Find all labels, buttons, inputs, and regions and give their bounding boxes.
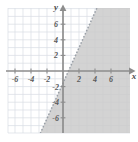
x-tick-label: -6 — [12, 75, 19, 84]
y-tick-label: -6 — [52, 114, 59, 123]
x-tick-label: 4 — [92, 75, 97, 84]
x-tick-label: 2 — [76, 75, 81, 84]
y-tick-label: -4 — [52, 98, 59, 107]
graph-canvas: -6 -4 -2 2 4 6 6 4 2 -2 -4 -6 x y — [0, 0, 138, 142]
x-tick-label: 6 — [109, 75, 113, 84]
x-tick-label: -4 — [28, 75, 35, 84]
x-axis-label: x — [131, 71, 137, 81]
y-tick-label: 2 — [53, 51, 58, 60]
x-tick-label: -2 — [44, 75, 51, 84]
y-tick-label: 4 — [53, 36, 58, 45]
inequality-graph-figure: -6 -4 -2 2 4 6 6 4 2 -2 -4 -6 x y — [0, 0, 138, 142]
y-tick-label: -2 — [52, 83, 59, 92]
y-tick-label: 6 — [54, 20, 58, 29]
